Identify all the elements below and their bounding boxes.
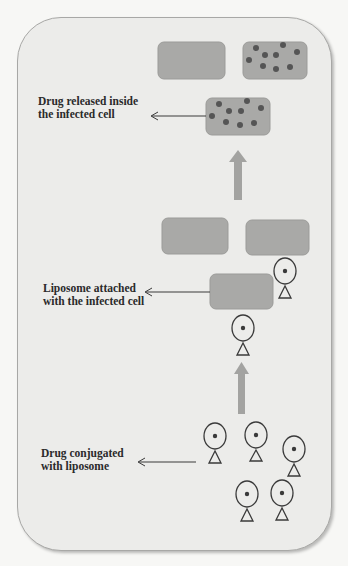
liposome-icon (271, 480, 293, 520)
drug-dot (273, 66, 279, 72)
upward-arrow-2 (234, 362, 249, 414)
infected-cell-empty (158, 42, 225, 79)
drug-dot (251, 120, 257, 126)
drug-dot (216, 101, 222, 107)
drug-dot (273, 52, 279, 58)
drug-released-cell (206, 98, 270, 135)
liposome-icon (274, 258, 296, 298)
liposome-icon (204, 423, 226, 463)
pointer-arrow-drug-released (151, 112, 206, 120)
liposome-icon (245, 422, 267, 461)
drug-dot (237, 122, 243, 128)
diagram-canvas (0, 0, 348, 566)
drug-dot (294, 49, 300, 55)
infected-cell-with-drug (243, 42, 307, 79)
liposome-attached-cell (210, 274, 273, 309)
drug-dot (258, 105, 264, 111)
pointer-arrow-liposome-attached (145, 288, 210, 296)
drug-dot (262, 52, 268, 58)
pointer-arrow-drug-conjugated (138, 458, 196, 466)
drug-dot (253, 45, 259, 51)
drug-dot (246, 57, 252, 63)
drug-dot (223, 119, 229, 125)
infected-cell-a (162, 218, 228, 254)
drug-dot (238, 108, 244, 114)
drug-dot (226, 108, 232, 114)
liposome-icon (232, 315, 254, 355)
drug-dot (244, 98, 250, 104)
liposome-icon (283, 436, 305, 476)
drug-dot (209, 113, 215, 119)
drug-dot (260, 63, 266, 69)
upward-arrow-1 (229, 150, 247, 200)
infected-cell-b (246, 220, 309, 255)
drug-dot (280, 42, 286, 48)
liposome-icon (236, 481, 258, 521)
drug-dot (287, 64, 293, 70)
